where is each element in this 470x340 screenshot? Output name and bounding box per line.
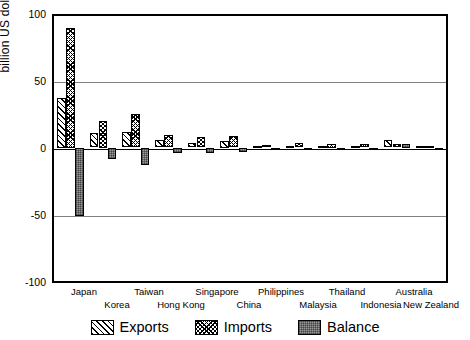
bar-imports-japan — [66, 28, 75, 147]
bar-balance-taiwan — [141, 148, 150, 166]
solid-gray-swatch-icon — [298, 320, 321, 335]
bar-balance-hong-kong — [173, 148, 182, 154]
bar-exports-hong-kong — [155, 140, 164, 147]
bar-group-taiwan — [122, 16, 155, 281]
bar-group-new-zealand — [416, 16, 449, 281]
bar-group-indonesia — [351, 16, 384, 281]
bar-balance-china — [239, 148, 248, 153]
x-axis-labels: Japan Korea Taiwan Hong Kong Singapore C… — [0, 286, 470, 316]
bar-balance-singapore — [206, 148, 215, 153]
y-tick-label-100: 100 — [6, 8, 46, 20]
bar-group-korea — [90, 16, 123, 281]
bar-exports-china — [220, 141, 229, 148]
legend-item-imports: Imports — [195, 319, 272, 335]
bar-imports-korea — [99, 121, 108, 148]
bar-balance-new-zealand — [435, 148, 444, 150]
x-label-taiwan: Taiwan — [117, 286, 181, 297]
legend-item-exports: Exports — [91, 319, 169, 335]
x-label-korea: Korea — [85, 299, 149, 310]
bar-imports-philippines — [262, 145, 271, 148]
bar-group-thailand — [318, 16, 351, 281]
bar-group-philippines — [253, 16, 286, 281]
x-label-philippines: Philippines — [243, 286, 319, 297]
bar-balance-indonesia — [369, 148, 378, 151]
bar-group-china — [220, 16, 253, 281]
bar-balance-japan — [75, 148, 84, 217]
bar-exports-taiwan — [122, 132, 131, 148]
bar-group-singapore — [188, 16, 221, 281]
bar-exports-korea — [90, 133, 99, 148]
y-tick-label-0: 0 — [6, 142, 46, 154]
bar-group-malaysia — [286, 16, 319, 281]
legend-label-exports: Exports — [120, 319, 169, 335]
bar-balance-australia — [402, 144, 411, 147]
bar-balance-philippines — [271, 148, 280, 150]
bar-exports-philippines — [253, 146, 262, 148]
bar-exports-indonesia — [351, 146, 360, 148]
bar-exports-australia — [384, 140, 393, 148]
y-tick-label-50: 50 — [6, 75, 46, 87]
bar-imports-singapore — [197, 137, 206, 148]
bar-imports-australia — [393, 144, 402, 148]
bar-imports-thailand — [327, 144, 336, 147]
bar-exports-singapore — [188, 143, 197, 148]
cross-hatch-swatch-icon — [195, 320, 218, 335]
bar-series-container — [54, 16, 446, 281]
legend-label-imports: Imports — [224, 319, 272, 335]
x-label-hong-kong: Hong Kong — [145, 299, 217, 310]
x-label-japan: Japan — [52, 286, 116, 297]
bar-group-japan — [57, 16, 90, 281]
bar-exports-new-zealand — [416, 146, 425, 148]
x-label-china: China — [217, 299, 281, 310]
bar-imports-china — [229, 136, 238, 148]
bar-imports-malaysia — [295, 143, 304, 148]
bar-imports-taiwan — [131, 114, 140, 148]
bar-group-hong-kong — [155, 16, 188, 281]
bar-imports-indonesia — [360, 144, 369, 148]
bar-exports-japan — [57, 98, 66, 148]
x-label-thailand: Thailand — [313, 286, 381, 297]
x-label-new-zealand: New Zealand — [389, 299, 470, 310]
bar-balance-malaysia — [304, 148, 313, 150]
bar-imports-new-zealand — [425, 146, 434, 148]
bar-balance-korea — [108, 148, 117, 160]
bar-exports-thailand — [318, 146, 327, 148]
legend-label-balance: Balance — [327, 319, 379, 335]
chart-legend: Exports Imports Balance — [0, 316, 470, 338]
bar-balance-thailand — [337, 148, 346, 150]
bar-exports-malaysia — [286, 146, 295, 148]
plot-area — [52, 14, 448, 283]
bar-imports-hong-kong — [164, 135, 173, 148]
x-label-australia: Australia — [378, 286, 450, 297]
y-tick-label--50: -50 — [6, 209, 46, 221]
diagonal-hatch-swatch-icon — [91, 320, 114, 335]
bar-group-australia — [384, 16, 417, 281]
legend-item-balance: Balance — [298, 319, 379, 335]
